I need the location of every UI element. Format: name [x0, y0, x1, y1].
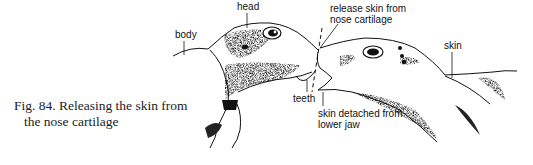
caption-line-1: Fig. 84. Releasing the skin from: [14, 98, 188, 113]
left-head-drawing: [173, 23, 318, 148]
caption-line-2: the nose cartilage: [14, 114, 188, 130]
illustration: [0, 0, 533, 165]
label-release: release skin from nose cartilage: [330, 3, 406, 25]
label-head: head: [237, 1, 259, 12]
label-detached-line-1: skin detached from: [318, 108, 403, 119]
label-skin: skin: [444, 40, 462, 51]
figure-caption: Fig. 84. Releasing the skin from the nos…: [14, 98, 188, 130]
label-detached-line-2: lower jaw: [318, 119, 360, 130]
label-release-line-2: nose cartilage: [330, 14, 392, 25]
label-release-line-1: release skin from: [330, 3, 406, 14]
label-detached: skin detached from lower jaw: [318, 108, 403, 130]
label-teeth: teeth: [293, 93, 315, 104]
release-leader: [320, 24, 338, 48]
label-body: body: [175, 29, 197, 40]
